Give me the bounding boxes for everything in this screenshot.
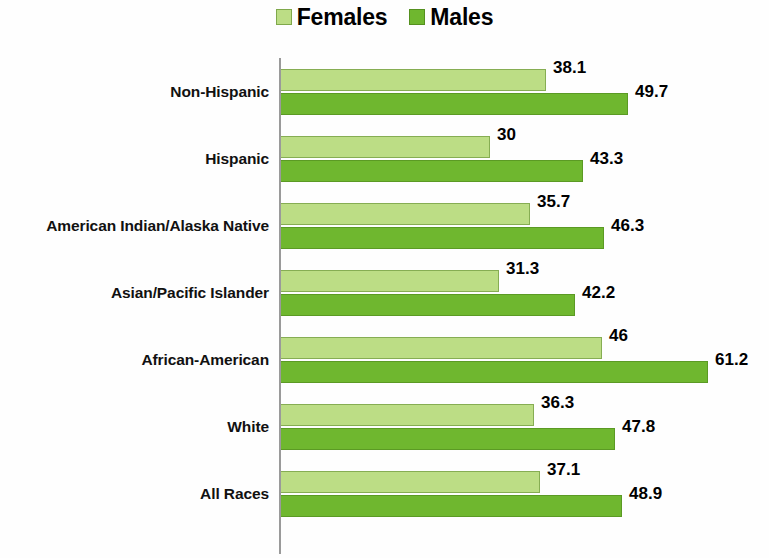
bar-females: 31.3 xyxy=(281,270,539,292)
bar-females: 46 xyxy=(281,337,628,359)
bar-value-males: 43.3 xyxy=(590,150,623,167)
bar-value-females: 36.3 xyxy=(541,394,574,411)
bar-rect-males xyxy=(281,227,604,249)
legend-label-females: Females xyxy=(297,6,388,29)
bar-value-males: 49.7 xyxy=(635,83,668,100)
bar-rect-males xyxy=(281,495,622,517)
bar-group: African-American 46 61.2 xyxy=(0,326,769,393)
bar-value-females: 38.1 xyxy=(553,59,586,76)
bar-group: Non-Hispanic 38.1 49.7 xyxy=(0,58,769,125)
bar-rect-females xyxy=(281,203,530,225)
category-label: American Indian/Alaska Native xyxy=(46,217,269,235)
bar-value-females: 30 xyxy=(497,126,516,143)
bar-females: 35.7 xyxy=(281,203,570,225)
bar-group: All Races 37.1 48.9 xyxy=(0,460,769,527)
bar-value-females: 35.7 xyxy=(537,193,570,210)
bar-group: White 36.3 47.8 xyxy=(0,393,769,460)
bar-rect-males xyxy=(281,361,708,383)
bar-value-males: 48.9 xyxy=(629,485,662,502)
category-label: White xyxy=(227,418,269,436)
bar-females: 37.1 xyxy=(281,471,580,493)
bar-value-males: 47.8 xyxy=(622,418,655,435)
bar-females: 38.1 xyxy=(281,69,586,91)
category-label: Non-Hispanic xyxy=(170,83,269,101)
bar-value-males: 42.2 xyxy=(582,284,615,301)
bar-value-females: 37.1 xyxy=(547,461,580,478)
bar-males: 61.2 xyxy=(281,361,748,383)
bar-rect-females xyxy=(281,471,540,493)
bar-rect-males xyxy=(281,428,615,450)
bar-value-males: 46.3 xyxy=(611,217,644,234)
category-label: African-American xyxy=(141,351,269,369)
bar-males: 43.3 xyxy=(281,160,623,182)
males-swatch-icon xyxy=(409,9,425,25)
bar-group: American Indian/Alaska Native 35.7 46.3 xyxy=(0,192,769,259)
bar-males: 42.2 xyxy=(281,294,615,316)
bar-rect-males xyxy=(281,93,628,115)
bar-rect-females xyxy=(281,136,490,158)
legend-item-females: Females xyxy=(276,6,388,29)
bar-rect-females xyxy=(281,270,499,292)
bar-females: 30 xyxy=(281,136,516,158)
bar-males: 47.8 xyxy=(281,428,655,450)
bar-value-males: 61.2 xyxy=(715,351,748,368)
bar-group: Hispanic 30 43.3 xyxy=(0,125,769,192)
bar-females: 36.3 xyxy=(281,404,574,426)
legend-item-males: Males xyxy=(409,6,493,29)
chart-legend: Females Males xyxy=(0,2,769,32)
bar-group: Asian/Pacific Islander 31.3 42.2 xyxy=(0,259,769,326)
bar-chart: Females Males Non-Hispanic 38.1 49.7 His… xyxy=(0,0,769,558)
bar-rect-females xyxy=(281,69,546,91)
category-label: Asian/Pacific Islander xyxy=(111,284,269,302)
plot-area: Non-Hispanic 38.1 49.7 Hispanic 30 43.3 xyxy=(0,36,769,558)
bar-rect-males xyxy=(281,294,575,316)
bar-males: 49.7 xyxy=(281,93,668,115)
females-swatch-icon xyxy=(276,9,292,25)
bar-value-females: 46 xyxy=(609,327,628,344)
bar-rect-males xyxy=(281,160,583,182)
bar-males: 48.9 xyxy=(281,495,662,517)
bar-value-females: 31.3 xyxy=(506,260,539,277)
category-label: All Races xyxy=(200,485,269,503)
bar-rect-females xyxy=(281,337,602,359)
bar-rect-females xyxy=(281,404,534,426)
legend-label-males: Males xyxy=(430,6,493,29)
bar-males: 46.3 xyxy=(281,227,644,249)
category-label: Hispanic xyxy=(205,150,269,168)
